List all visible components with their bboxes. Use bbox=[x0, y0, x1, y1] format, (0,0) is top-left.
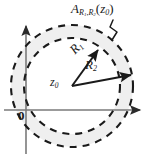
center-label-z0: z0 bbox=[50, 76, 58, 90]
origin-label: 0 bbox=[18, 109, 25, 122]
center-label-index: 0 bbox=[55, 81, 59, 90]
annulus-set-label: AR1,R2(z0) bbox=[71, 2, 114, 18]
radius-label-r2-index: 2 bbox=[93, 64, 97, 73]
annulus-figure: AR1,R2(z0) R1 R2 z0 0 bbox=[0, 0, 160, 157]
annulus-label-paren-close: ) bbox=[109, 1, 113, 16]
figure-canvas bbox=[0, 0, 160, 157]
radius-label-r2: R2 bbox=[85, 58, 97, 73]
radius-label-r2-base: R bbox=[85, 57, 93, 72]
annulus-label-base: A bbox=[71, 1, 79, 16]
